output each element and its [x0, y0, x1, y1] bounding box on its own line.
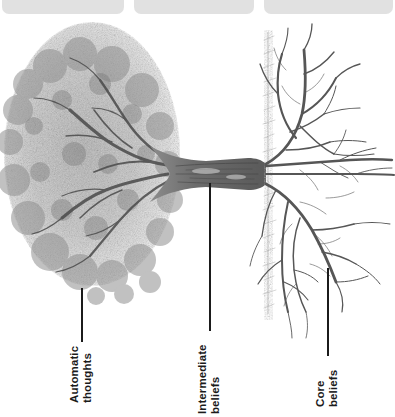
callout-intermediate-beliefs-leader-line — [209, 183, 211, 331]
callout-core-beliefs-leader-line — [327, 268, 329, 356]
top-card-1[interactable] — [2, 0, 124, 14]
top-card-3[interactable] — [264, 0, 393, 14]
callout-automatic-thoughts-leader-line — [81, 288, 83, 342]
callout-automatic-thoughts-label: Automatic thoughts — [68, 346, 94, 403]
top-card-strip — [0, 0, 395, 14]
callout-core-beliefs-label: Core beliefs — [314, 370, 340, 407]
top-card-2[interactable] — [134, 0, 254, 14]
callout-intermediate-beliefs-label: Intermediate beliefs — [196, 344, 222, 414]
